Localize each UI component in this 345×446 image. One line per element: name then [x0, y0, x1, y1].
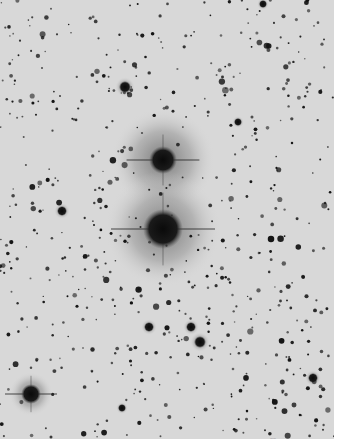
star — [21, 116, 23, 118]
star — [59, 358, 61, 360]
star — [115, 177, 119, 181]
star — [61, 257, 63, 259]
star — [147, 71, 150, 74]
star — [204, 408, 208, 412]
star — [275, 167, 277, 169]
star — [172, 91, 176, 95]
star — [20, 317, 23, 320]
star — [135, 217, 137, 219]
star — [303, 374, 306, 377]
star — [91, 154, 94, 157]
star — [28, 19, 30, 21]
star — [170, 274, 172, 276]
star — [83, 385, 87, 389]
star — [158, 14, 161, 17]
star — [282, 261, 286, 265]
star — [314, 418, 318, 422]
star — [80, 245, 83, 248]
bright-star — [194, 336, 206, 348]
star — [269, 0, 272, 2]
star — [275, 353, 278, 356]
star — [276, 169, 278, 171]
star — [227, 278, 230, 281]
star — [300, 368, 302, 370]
star — [15, 0, 19, 3]
star — [282, 392, 284, 394]
star — [114, 313, 115, 314]
star — [210, 359, 212, 361]
star — [101, 430, 107, 436]
star — [186, 260, 188, 262]
star — [19, 40, 21, 42]
star — [210, 15, 212, 17]
star — [243, 385, 245, 387]
star — [256, 288, 260, 292]
star — [18, 99, 22, 103]
star — [268, 236, 275, 243]
star — [249, 297, 252, 300]
star — [9, 368, 11, 370]
star — [182, 126, 184, 128]
star — [44, 51, 45, 52]
star — [97, 198, 102, 203]
star — [207, 115, 209, 117]
star — [9, 35, 10, 36]
star — [107, 180, 112, 185]
star — [203, 1, 205, 3]
star — [51, 130, 53, 132]
star — [162, 47, 164, 49]
star — [61, 232, 62, 233]
star — [286, 284, 291, 289]
star — [97, 37, 99, 39]
star — [137, 311, 139, 313]
star — [194, 417, 195, 418]
star — [230, 207, 232, 209]
bright-star — [57, 206, 67, 216]
star — [104, 205, 108, 209]
star — [220, 34, 223, 37]
star — [301, 275, 305, 279]
star — [221, 238, 225, 242]
star — [49, 359, 51, 361]
star — [110, 66, 112, 68]
star — [144, 86, 148, 90]
star — [159, 192, 163, 196]
star — [272, 399, 274, 401]
star — [231, 396, 233, 398]
star — [207, 110, 210, 113]
star — [274, 286, 276, 288]
star — [12, 33, 14, 35]
star — [16, 257, 19, 260]
star — [94, 258, 98, 262]
star — [129, 359, 132, 362]
star — [137, 3, 139, 5]
star — [163, 107, 166, 110]
star — [221, 341, 223, 343]
star — [315, 299, 317, 301]
star — [140, 371, 143, 374]
star — [266, 126, 270, 130]
star — [313, 308, 317, 312]
star — [267, 87, 270, 90]
star — [190, 35, 192, 37]
star — [57, 180, 59, 182]
star — [114, 305, 116, 307]
bright-star — [119, 81, 131, 93]
bright-star — [234, 118, 242, 126]
star — [46, 178, 50, 182]
star — [251, 327, 253, 329]
star — [239, 339, 242, 342]
star — [283, 64, 288, 69]
star — [183, 45, 186, 48]
star — [97, 266, 99, 268]
star — [307, 340, 310, 343]
star — [31, 102, 34, 105]
star — [236, 247, 240, 251]
star — [51, 334, 54, 337]
star — [209, 345, 211, 347]
star — [222, 430, 223, 431]
star — [289, 307, 292, 310]
star — [117, 150, 119, 152]
star — [296, 244, 302, 250]
star — [93, 224, 95, 226]
